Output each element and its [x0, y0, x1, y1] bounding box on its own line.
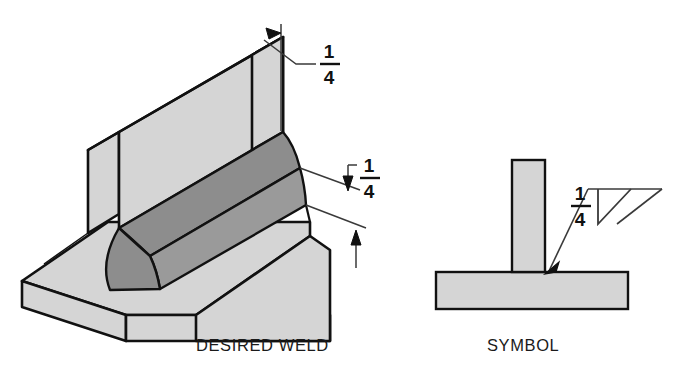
caption-symbol: SYMBOL	[487, 336, 559, 354]
dimension-vertical-numerator: 1	[324, 41, 335, 62]
symbol-base-plate	[436, 272, 628, 309]
fillet-weld-triangle	[598, 189, 631, 224]
weld-to-plate-seam	[306, 205, 310, 222]
symbol-panel: 1 4	[436, 160, 662, 309]
figure-canvas: 1 4 1 4 DESIRED WELD	[0, 0, 682, 377]
dimension-vertical-denominator: 4	[324, 67, 335, 88]
welding-figure: 1 4 1 4 DESIRED WELD	[0, 0, 682, 377]
arrowhead-horizontal-up	[351, 230, 361, 245]
symbol-size-numerator: 1	[575, 183, 586, 204]
dimension-horizontal-denominator: 4	[364, 181, 375, 202]
desired-weld-panel	[22, 37, 330, 341]
vertical-plate-right-end-face	[252, 37, 283, 150]
reference-line-tail	[617, 189, 662, 224]
dimension-horizontal-numerator: 1	[364, 155, 375, 176]
caption-desired-weld: DESIRED WELD	[196, 336, 329, 354]
symbol-vertical-plate	[512, 160, 545, 272]
arrowhead-vertical-leg	[266, 28, 281, 39]
extension-line-horizontal-lower	[306, 205, 366, 228]
arrowhead-horizontal-down	[343, 176, 353, 191]
symbol-size-denominator: 4	[575, 209, 586, 230]
